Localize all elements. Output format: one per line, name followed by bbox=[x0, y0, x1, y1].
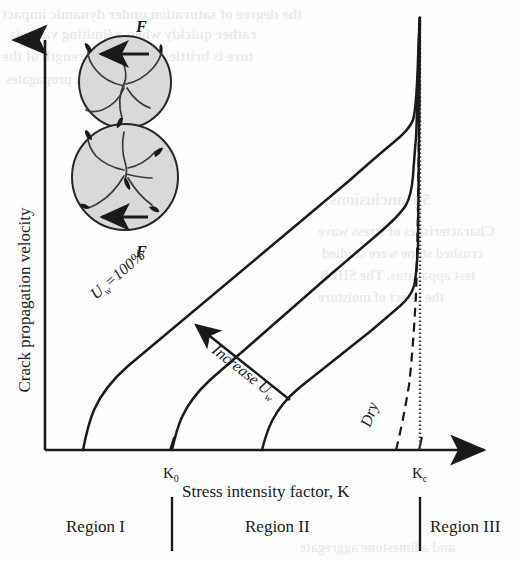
label-dry: Dry bbox=[357, 399, 383, 430]
y-axis-title: Crack propagation velocity bbox=[15, 207, 34, 393]
tick-Kc bbox=[419, 437, 422, 450]
tick-label-Kc: Kc bbox=[412, 465, 428, 484]
region-label-1: Region I bbox=[66, 517, 125, 536]
crack-velocity-figure: Uw=100% Increase Uw Dry K0 Kc Stress int… bbox=[0, 0, 521, 566]
increase-uw-annotation: Increase Uw bbox=[196, 325, 290, 404]
force-label-bottom: F bbox=[135, 243, 147, 260]
tick-label-K0: K0 bbox=[163, 465, 179, 484]
figure-page: the degree of saturation under dynamic i… bbox=[0, 0, 521, 566]
region-label-3: Region III bbox=[430, 517, 501, 536]
force-label-top: F bbox=[135, 18, 147, 35]
increase-uw-text: Increase U bbox=[208, 340, 276, 398]
x-axis-ticks bbox=[170, 437, 422, 450]
region-label-2: Region II bbox=[245, 517, 310, 536]
dry-label-text: Dry bbox=[357, 399, 383, 430]
x-axis-title: Stress intensity factor, K bbox=[182, 482, 350, 501]
grain-contact-inset: F F bbox=[72, 18, 178, 260]
curve-intermediate bbox=[172, 18, 420, 450]
